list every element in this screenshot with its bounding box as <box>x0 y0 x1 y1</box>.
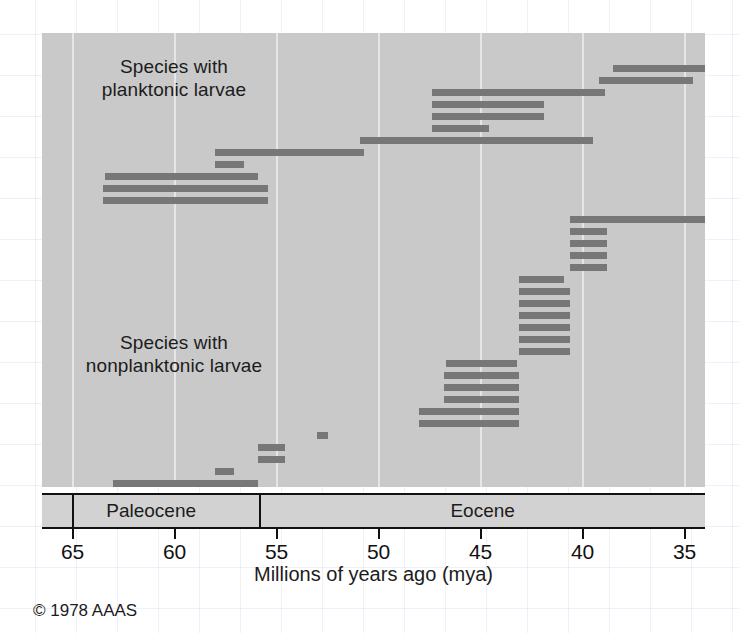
range-bar <box>215 161 244 168</box>
range-bar <box>444 396 519 403</box>
range-bar <box>519 336 570 343</box>
range-bar <box>215 149 364 156</box>
gridline-60 <box>174 33 176 487</box>
range-bar <box>519 324 570 331</box>
range-bar <box>105 173 258 180</box>
range-bar <box>570 216 705 223</box>
range-bar <box>519 300 570 307</box>
axis-tick-label-50: 50 <box>367 540 390 564</box>
range-bar <box>444 384 519 391</box>
range-bar <box>258 444 285 451</box>
range-bar <box>570 228 607 235</box>
gridline-55 <box>276 33 278 487</box>
axis-tick-label-35: 35 <box>673 540 696 564</box>
range-bar <box>613 65 705 72</box>
epoch-cell-paleocene: Paleocene <box>42 495 260 527</box>
axis-tick-label-65: 65 <box>61 540 84 564</box>
axis-tick-55 <box>276 529 278 539</box>
range-bar <box>519 348 570 355</box>
range-bar <box>570 252 607 259</box>
range-bar <box>432 89 605 96</box>
axis-tick-label-45: 45 <box>469 540 492 564</box>
gridline-65 <box>72 33 74 487</box>
range-bar <box>215 468 233 475</box>
epoch-cell-eocene: Eocene <box>260 495 705 527</box>
x-axis-title: Millions of years ago (mya) <box>42 563 705 586</box>
range-bar <box>113 480 258 487</box>
gridline-50 <box>378 33 380 487</box>
range-bar <box>570 264 607 271</box>
axis-tick-65 <box>72 529 74 539</box>
axis-tick-45 <box>480 529 482 539</box>
figure-stratigraphic-ranges: Species with planktonic larvae Species w… <box>0 0 739 633</box>
axis-tick-40 <box>582 529 584 539</box>
range-bar <box>432 101 544 108</box>
range-bar <box>103 185 268 192</box>
range-bar <box>432 125 489 132</box>
copyright-credit: © 1978 AAAS <box>33 601 137 621</box>
range-bar <box>419 408 519 415</box>
range-bar <box>599 77 693 84</box>
range-bar <box>519 312 570 319</box>
range-bar <box>317 432 327 439</box>
range-bar <box>432 113 544 120</box>
gridline-35 <box>684 33 686 487</box>
range-bar <box>444 372 519 379</box>
range-bar <box>103 197 268 204</box>
range-bar <box>419 420 519 427</box>
range-bar <box>446 360 517 367</box>
axis-tick-35 <box>684 529 686 539</box>
axis-tick-label-60: 60 <box>163 540 186 564</box>
epoch-separator <box>259 495 261 527</box>
range-bar <box>360 137 593 144</box>
group-label-planktonic: Species with planktonic larvae <box>74 55 274 101</box>
axis-tick-label-55: 55 <box>265 540 288 564</box>
epoch-separator-start <box>72 495 74 527</box>
axis-tick-50 <box>378 529 380 539</box>
axis-tick-60 <box>174 529 176 539</box>
range-bar <box>570 240 607 247</box>
range-bar <box>258 456 285 463</box>
gridline-40 <box>582 33 584 487</box>
group-label-nonplanktonic: Species with nonplanktonic larvae <box>74 331 274 377</box>
plot-area: Species with planktonic larvae Species w… <box>42 33 705 487</box>
range-bar <box>519 288 570 295</box>
axis-tick-label-40: 40 <box>571 540 594 564</box>
range-bar <box>519 276 564 283</box>
epoch-band: PaleoceneEocene <box>42 493 705 529</box>
